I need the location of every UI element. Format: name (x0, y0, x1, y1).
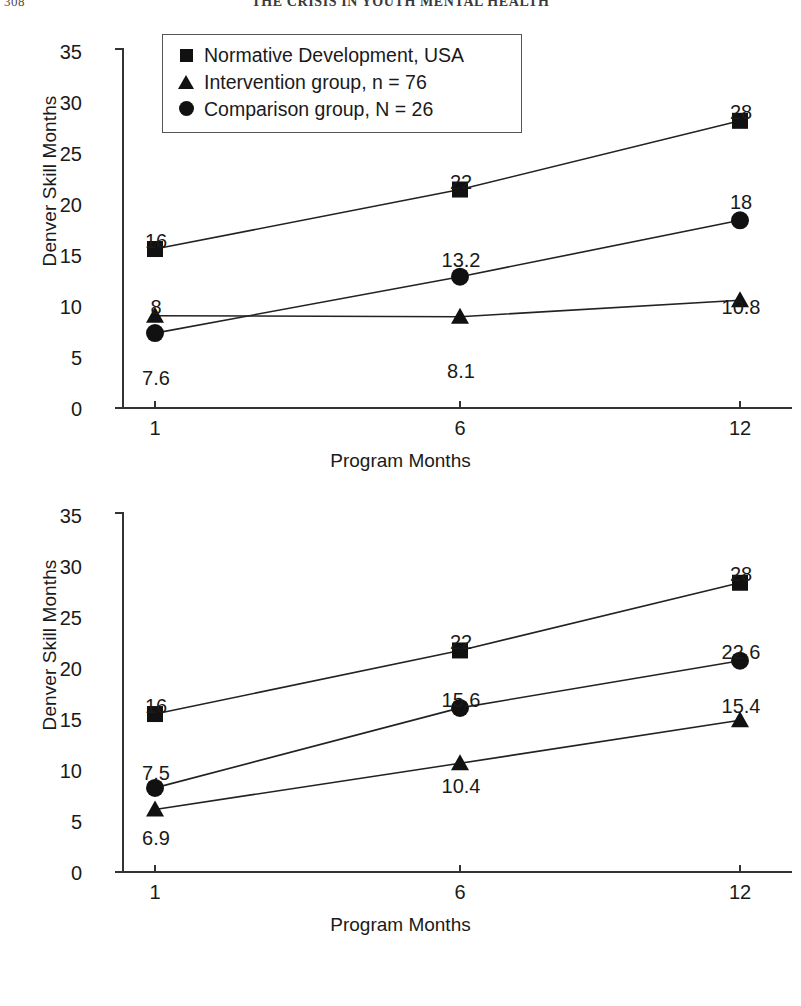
x-tick-1-top: 1 (125, 418, 185, 438)
x-tick-12-top: 12 (710, 418, 770, 438)
figure-top: Denver Skill Months 35 30 25 20 15 10 5 … (0, 20, 801, 490)
circle-marker-icon (175, 98, 197, 121)
datalabel-bottom-s1-p2: 15.4 (722, 696, 761, 716)
datalabel-bottom-s2-p2: 22.6 (722, 642, 761, 662)
x-axis-title-bottom: Program Months (0, 914, 801, 936)
datalabel-bottom-s0-p0: 16 (145, 696, 167, 716)
legend-label-normative: Normative Development, USA (204, 44, 464, 67)
series-layer-bottom (0, 484, 801, 884)
datalabel-bottom-s0-p1: 22 (450, 632, 472, 652)
x-tick-6-bottom: 6 (430, 882, 490, 902)
page-running-head: 308 THE CRISIS IN YOUTH MENTAL HEALTH (0, 0, 801, 8)
running-head-title: THE CRISIS IN YOUTH MENTAL HEALTH (0, 0, 801, 8)
legend-entry-intervention: Intervention group, n = 76 (175, 69, 507, 96)
datalabel-top-s0-p1: 22 (450, 172, 472, 192)
x-axis-title-top: Program Months (0, 450, 801, 472)
datalabel-top-s1-p1: 8.1 (447, 361, 475, 381)
figure-bottom: Denver Skill Months 35 30 25 20 15 10 5 … (0, 484, 801, 994)
datalabel-top-s2-p2: 18 (730, 192, 752, 212)
plot-area-bottom: Denver Skill Months 35 30 25 20 15 10 5 … (0, 484, 801, 884)
legend-label-intervention: Intervention group, n = 76 (204, 71, 427, 94)
datalabel-top-s1-p0: 8 (150, 297, 161, 317)
datalabel-top-s1-p2: 10.8 (722, 297, 761, 317)
datalabel-bottom-s1-p0: 6.9 (142, 828, 170, 848)
x-tick-12-bottom: 12 (710, 882, 770, 902)
datalabel-top-s0-p0: 16 (145, 231, 167, 251)
datalabel-bottom-s2-p0: 7.5 (142, 763, 170, 783)
legend-entry-normative: Normative Development, USA (175, 42, 507, 69)
legend-entry-comparison: Comparison group, N = 26 (175, 96, 507, 123)
datalabel-top-s2-p0: 7.6 (142, 368, 170, 388)
datalabel-bottom-s0-p2: 28 (730, 564, 752, 584)
datalabel-top-s0-p2: 28 (730, 102, 752, 122)
legend: Normative Development, USA Intervention … (162, 34, 522, 133)
x-tick-6-top: 6 (430, 418, 490, 438)
square-marker-icon (175, 44, 197, 67)
plot-area-top: Denver Skill Months 35 30 25 20 15 10 5 … (0, 20, 801, 420)
datalabel-bottom-s2-p1: 15.6 (442, 690, 481, 710)
datalabel-top-s2-p1: 13.2 (442, 250, 481, 270)
x-tick-1-bottom: 1 (125, 882, 185, 902)
datalabel-bottom-s1-p1: 10.4 (442, 776, 481, 796)
legend-label-comparison: Comparison group, N = 26 (204, 98, 433, 121)
triangle-marker-icon (175, 71, 197, 94)
